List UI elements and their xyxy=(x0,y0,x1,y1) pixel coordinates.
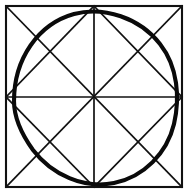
geometric-figure-canvas xyxy=(0,0,189,193)
geometric-construction-drawing xyxy=(0,0,189,193)
